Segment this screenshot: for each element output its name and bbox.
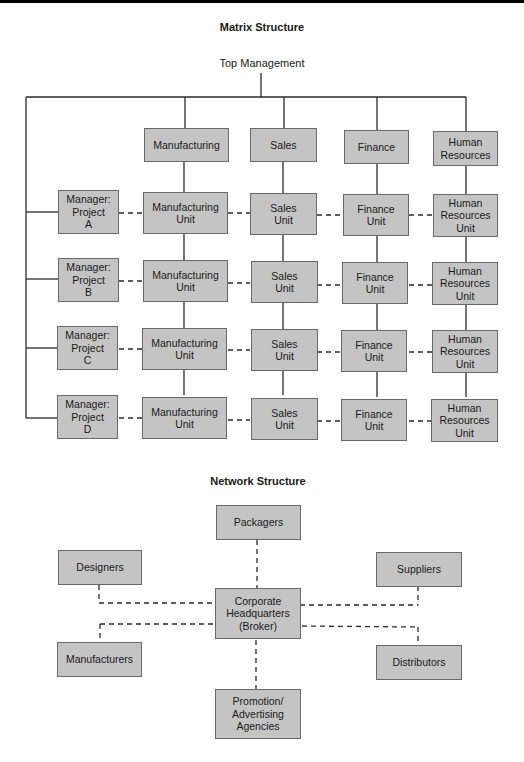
unit-finance-a: Finance Unit bbox=[343, 194, 409, 236]
node-manufacturers: Manufacturers bbox=[57, 642, 142, 677]
node-corporate-headquarters: Corporate Headquarters (Broker) bbox=[215, 588, 301, 639]
unit-hr-b: Human Resources Unit bbox=[432, 262, 498, 305]
unit-finance-c: Finance Unit bbox=[341, 330, 407, 372]
node-packagers: Packagers bbox=[216, 505, 301, 540]
unit-finance-d: Finance Unit bbox=[341, 399, 407, 441]
unit-sales-d: Sales Unit bbox=[251, 398, 318, 440]
function-finance: Finance bbox=[344, 130, 409, 164]
unit-hr-c: Human Resources Unit bbox=[432, 330, 498, 373]
function-sales: Sales bbox=[250, 128, 317, 162]
node-distributors: Distributors bbox=[376, 645, 462, 680]
network-structure-title: Network Structure bbox=[158, 475, 358, 487]
unit-sales-a: Sales Unit bbox=[250, 193, 317, 235]
node-designers: Designers bbox=[58, 550, 142, 585]
unit-manufacturing-a: Manufacturing Unit bbox=[143, 192, 228, 234]
function-human-resources: Human Resources bbox=[433, 131, 498, 166]
manager-project-b: Manager: Project B bbox=[58, 258, 119, 302]
unit-manufacturing-b: Manufacturing Unit bbox=[143, 260, 228, 302]
manager-project-d: Manager: Project D bbox=[57, 395, 118, 439]
manager-project-c: Manager: Project C bbox=[57, 326, 118, 370]
unit-hr-a: Human Resources Unit bbox=[433, 194, 498, 237]
function-manufacturing: Manufacturing bbox=[144, 128, 229, 162]
unit-hr-d: Human Resources Unit bbox=[431, 399, 498, 442]
unit-sales-b: Sales Unit bbox=[251, 261, 318, 303]
unit-finance-b: Finance Unit bbox=[342, 262, 408, 304]
unit-manufacturing-c: Manufacturing Unit bbox=[142, 328, 227, 370]
node-promotion-advertising: Promotion/ Advertising Agencies bbox=[215, 689, 301, 739]
unit-sales-c: Sales Unit bbox=[251, 329, 318, 371]
node-suppliers: Suppliers bbox=[376, 552, 462, 587]
manager-project-a: Manager: Project A bbox=[58, 190, 119, 234]
unit-manufacturing-d: Manufacturing Unit bbox=[142, 397, 227, 439]
